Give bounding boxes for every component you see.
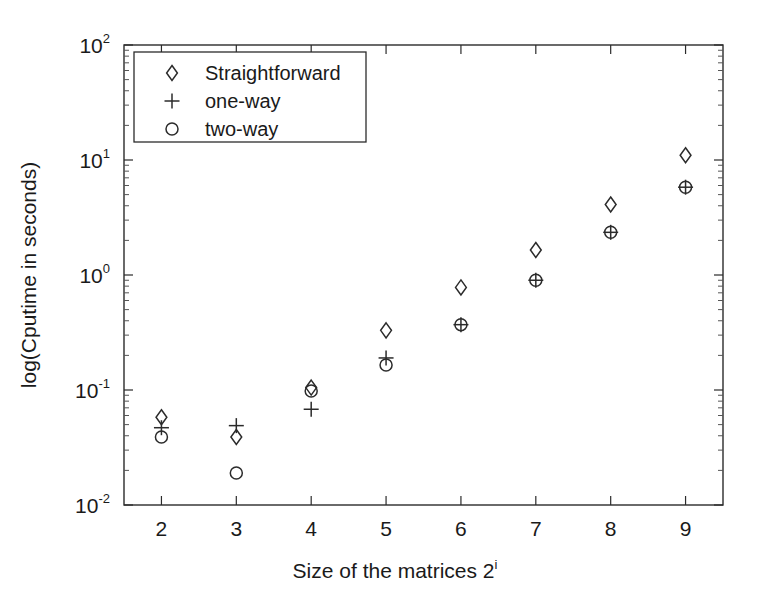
y-tick-exponent: -1 bbox=[98, 376, 110, 391]
figure-container: 10210110010-110-2 23456789 log(Cputime i… bbox=[0, 0, 762, 594]
x-tick-label: 4 bbox=[305, 517, 317, 540]
x-tick-label: 8 bbox=[605, 517, 617, 540]
y-tick-exponent: 0 bbox=[103, 261, 110, 276]
x-tick-label: 9 bbox=[680, 517, 692, 540]
legend-label-diamond: Straightforward bbox=[205, 62, 341, 84]
x-tick-label: 6 bbox=[455, 517, 467, 540]
legend-label-circle: two-way bbox=[205, 118, 278, 140]
x-axis-title-text: Size of the matrices 2i bbox=[293, 557, 498, 582]
y-tick-base: 10 bbox=[79, 149, 102, 172]
x-axis-title-superscript: i bbox=[495, 557, 498, 572]
x-tick-label: 5 bbox=[380, 517, 392, 540]
y-axis-title-text: log(Cputime in seconds) bbox=[17, 162, 40, 388]
scatter-plot: 10210110010-110-2 23456789 log(Cputime i… bbox=[0, 0, 762, 594]
y-tick-exponent: -2 bbox=[98, 491, 110, 506]
y-tick-exponent: 1 bbox=[103, 146, 110, 161]
y-tick-base: 10 bbox=[75, 494, 98, 517]
x-tick-label: 2 bbox=[156, 517, 168, 540]
y-tick-base: 10 bbox=[79, 264, 102, 287]
legend: Straightforwardone-waytwo-way bbox=[134, 52, 366, 142]
x-axis-title-main: Size of the matrices 2 bbox=[293, 559, 495, 582]
y-tick-base: 10 bbox=[79, 34, 102, 57]
y-axis-title: log(Cputime in seconds) bbox=[17, 162, 40, 388]
legend-label-plus: one-way bbox=[205, 90, 281, 112]
y-tick-exponent: 2 bbox=[103, 31, 110, 46]
x-axis-title: Size of the matrices 2i bbox=[293, 557, 498, 582]
x-tick-label: 7 bbox=[530, 517, 542, 540]
x-tick-label: 3 bbox=[230, 517, 242, 540]
y-tick-base: 10 bbox=[75, 379, 98, 402]
